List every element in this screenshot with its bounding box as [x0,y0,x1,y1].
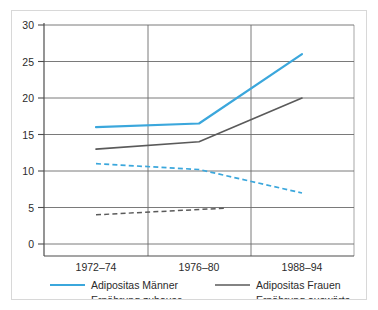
legend-item-adipositas-maenner[interactable]: Adipositas Männer [50,279,178,291]
x-tick-label-1976-80: 1976–80 [179,261,220,273]
y-tick-label-5: 5 [28,202,34,214]
x-tick-label-1988-94: 1988–94 [282,261,323,273]
y-axis [38,23,44,256]
x-tick-label-1972-74: 1972–74 [76,261,117,273]
chart-legend: Adipositas Männer Adipositas Frauen Ernä… [50,279,350,299]
line-chart-svg: 30 25 20 15 10 5 0 1972–74 1976–80 1988–… [12,11,366,299]
legend-item-adipositas-frauen[interactable]: Adipositas Frauen [215,279,341,291]
x-tick-labels: 1972–74 1976–80 1988–94 [76,261,323,273]
series-line-ernaehrung-zuhause [96,164,302,193]
legend-label-ernaehrung-zuhause: Ernährung zuhause [91,294,183,299]
y-tick-label-30: 30 [22,19,34,31]
y-tick-label-20: 20 [22,92,34,104]
y-tick-label-0: 0 [28,238,34,250]
y-tick-labels: 30 25 20 15 10 5 0 [22,19,34,250]
legend-label-ernaehrung-auswaerts: Ernährung auswärts [256,294,350,299]
legend-item-ernaehrung-auswaerts[interactable]: Ernährung auswärts [215,294,350,299]
legend-item-ernaehrung-zuhause[interactable]: Ernährung zuhause [50,294,183,299]
y-tick-label-15: 15 [22,129,34,141]
chart-frame: 30 25 20 15 10 5 0 1972–74 1976–80 1988–… [11,10,367,300]
vertical-gridlines [148,25,354,256]
series-line-adipositas-maenner [96,54,302,127]
y-tick-label-25: 25 [22,56,34,68]
y-tick-label-10: 10 [22,165,34,177]
legend-label-adipositas-frauen: Adipositas Frauen [256,279,341,291]
legend-label-adipositas-maenner: Adipositas Männer [91,279,178,291]
series-line-ernaehrung-auswaerts [96,208,225,215]
chart-figure: 30 25 20 15 10 5 0 1972–74 1976–80 1988–… [0,0,378,310]
horizontal-gridlines [44,25,354,244]
